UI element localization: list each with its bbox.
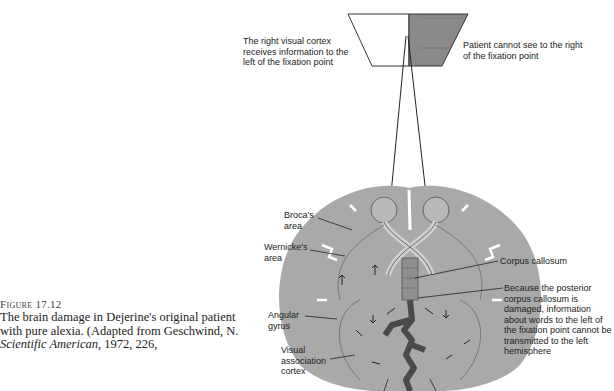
left-field-label: The right visual cortex receives informa… (243, 36, 363, 68)
right-field-label: Patient cannot see to the right of the f… (463, 40, 583, 61)
broca-label: Broca's area (284, 210, 324, 231)
right-visual-field-blind (409, 14, 468, 66)
corpus-callosum-label: Corpus callosum (500, 256, 610, 267)
wernicke-label: Wernicke's area (264, 242, 314, 263)
caption-text: The brain damage in Dejerine's original … (0, 311, 240, 352)
figure-caption: Figure 17.12 The brain damage in Dejerin… (0, 297, 240, 352)
figure-number: Figure 17.12 (0, 297, 240, 311)
damage-note-label: Because the posterior corpus callosum is… (504, 283, 614, 357)
angular-gyrus-label: Angular gyrus (268, 310, 308, 331)
visual-association-label: Visual association cortex (281, 345, 336, 377)
